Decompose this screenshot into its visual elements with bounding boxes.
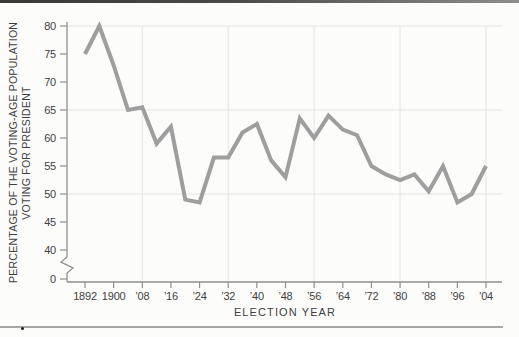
turnout-line: [85, 26, 486, 202]
x-tick-label: ’08: [135, 290, 149, 302]
x-tick-label: ’48: [278, 290, 292, 302]
page-dot: [21, 327, 24, 330]
x-tick-label: ’80: [393, 290, 407, 302]
bottom-rule: [0, 326, 503, 328]
x-tick-label: ’16: [164, 290, 178, 302]
y-tick-label: 60: [44, 132, 56, 144]
y-tick-label: 75: [44, 48, 56, 60]
x-tick-label: ’72: [364, 290, 378, 302]
x-axis-title: ELECTION YEAR: [67, 306, 503, 318]
y-tick-label: 45: [44, 216, 56, 228]
y-tick-label: 50: [44, 188, 56, 200]
y-tick-label: 40: [44, 244, 56, 256]
x-tick-label: ’96: [450, 290, 464, 302]
x-tick-label: ’64: [336, 290, 350, 302]
x-tick-label: ’32: [221, 290, 235, 302]
x-tick-label: 1900: [102, 290, 126, 302]
figure-page: PERCENTAGE OF THE VOTING-AGE POPULATION …: [0, 0, 519, 337]
y-tick-label: 70: [44, 76, 56, 88]
x-tick-label: ’24: [193, 290, 207, 302]
axis-break: [61, 257, 73, 273]
x-tick-label: ’56: [307, 290, 321, 302]
y-tick-label: 55: [44, 160, 56, 172]
y-tick-label: 80: [44, 20, 56, 32]
x-tick-label: ’88: [422, 290, 436, 302]
x-tick-label: ’04: [479, 290, 493, 302]
y-tick-label: 65: [44, 104, 56, 116]
y-tick-label: 0: [50, 273, 56, 285]
x-tick-label: 1892: [73, 290, 97, 302]
line-chart: 807570656055504540018921900’08’16’24’32’…: [0, 0, 519, 337]
x-tick-label: ’40: [250, 290, 264, 302]
